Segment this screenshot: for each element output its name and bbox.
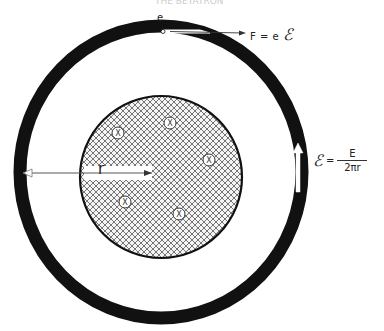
fraction-bar (337, 160, 367, 161)
field-marker-icon: X (164, 117, 176, 129)
electron-label: e (157, 12, 163, 23)
radius-label: r (98, 160, 104, 178)
equals-sign: = (326, 155, 334, 166)
svg-text:X: X (167, 119, 173, 128)
svg-text:X: X (176, 210, 182, 219)
force-label: F = e ℰ (250, 25, 293, 44)
field-marker-icon: X (173, 208, 185, 220)
field-equation: ℰ = E 2πr (313, 148, 367, 173)
svg-text:X: X (206, 156, 212, 165)
numerator: E (347, 148, 357, 159)
field-marker-icon: X (112, 127, 124, 139)
emf-symbol: ℰ (283, 25, 294, 44)
field-marker-icon: X (119, 196, 131, 208)
fraction: E 2πr (337, 148, 367, 173)
field-symbol: ℰ (313, 151, 323, 170)
field-marker-icon: X (203, 154, 215, 166)
svg-text:X: X (115, 129, 121, 138)
svg-text:X: X (122, 198, 128, 207)
denominator: 2πr (344, 162, 361, 173)
force-label-prefix: F = e (250, 31, 279, 42)
